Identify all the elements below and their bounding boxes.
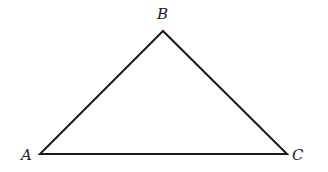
triangle-abc	[40, 31, 287, 154]
triangle-diagram	[0, 0, 328, 172]
vertex-label-b: B	[157, 7, 168, 22]
vertex-label-c: C	[292, 148, 303, 163]
vertex-label-a: A	[21, 148, 32, 163]
